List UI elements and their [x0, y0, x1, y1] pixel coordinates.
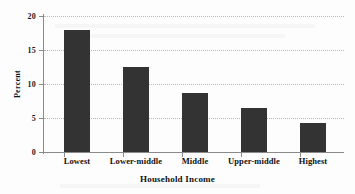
x-category-label-1: Lower-middle	[110, 156, 162, 166]
bar-lowest	[64, 30, 90, 152]
bar-highest	[300, 123, 326, 152]
y-tick-10	[39, 84, 44, 85]
y-tick-label-20: 20	[28, 12, 36, 21]
x-category-label-0: Lowest	[64, 156, 91, 166]
y-tick-label-5: 5	[32, 114, 36, 123]
y-tick-0	[39, 152, 44, 153]
x-category-label-3: Upper-middle	[228, 156, 280, 166]
y-tick-5	[39, 118, 44, 119]
y-tick-label-0: 0	[32, 148, 36, 157]
bar-middle	[182, 93, 208, 152]
x-category-label-4: Highest	[299, 156, 328, 166]
scan-artifact	[60, 184, 260, 188]
plot-area: 20 15 10 5 0 Lowest Lower-middle Middle …	[44, 16, 344, 152]
bar-lower-middle	[123, 67, 149, 152]
y-tick-label-10: 10	[28, 80, 36, 89]
bar-upper-middle	[241, 108, 267, 152]
bar-chart-figure: Percent 20 15 10 5 0 Lowest Lower-middle…	[0, 0, 355, 194]
gridline-20	[44, 16, 344, 17]
x-axis-line	[43, 152, 344, 153]
y-axis-title: Percent	[13, 70, 22, 98]
y-tick-20	[39, 16, 44, 17]
y-tick-15	[39, 50, 44, 51]
x-axis-title: Household Income	[0, 174, 355, 184]
x-category-label-2: Middle	[182, 156, 209, 166]
y-tick-label-15: 15	[28, 46, 36, 55]
